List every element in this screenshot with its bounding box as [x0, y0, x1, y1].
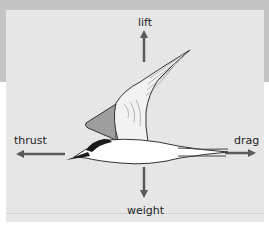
- bird-illustration-icon: [66, 50, 228, 164]
- weight-label: weight: [127, 205, 164, 216]
- lift-label: lift: [138, 17, 152, 28]
- thrust-label: thrust: [14, 135, 47, 146]
- forces-diagram: [0, 0, 269, 230]
- drag-label: drag: [234, 135, 259, 146]
